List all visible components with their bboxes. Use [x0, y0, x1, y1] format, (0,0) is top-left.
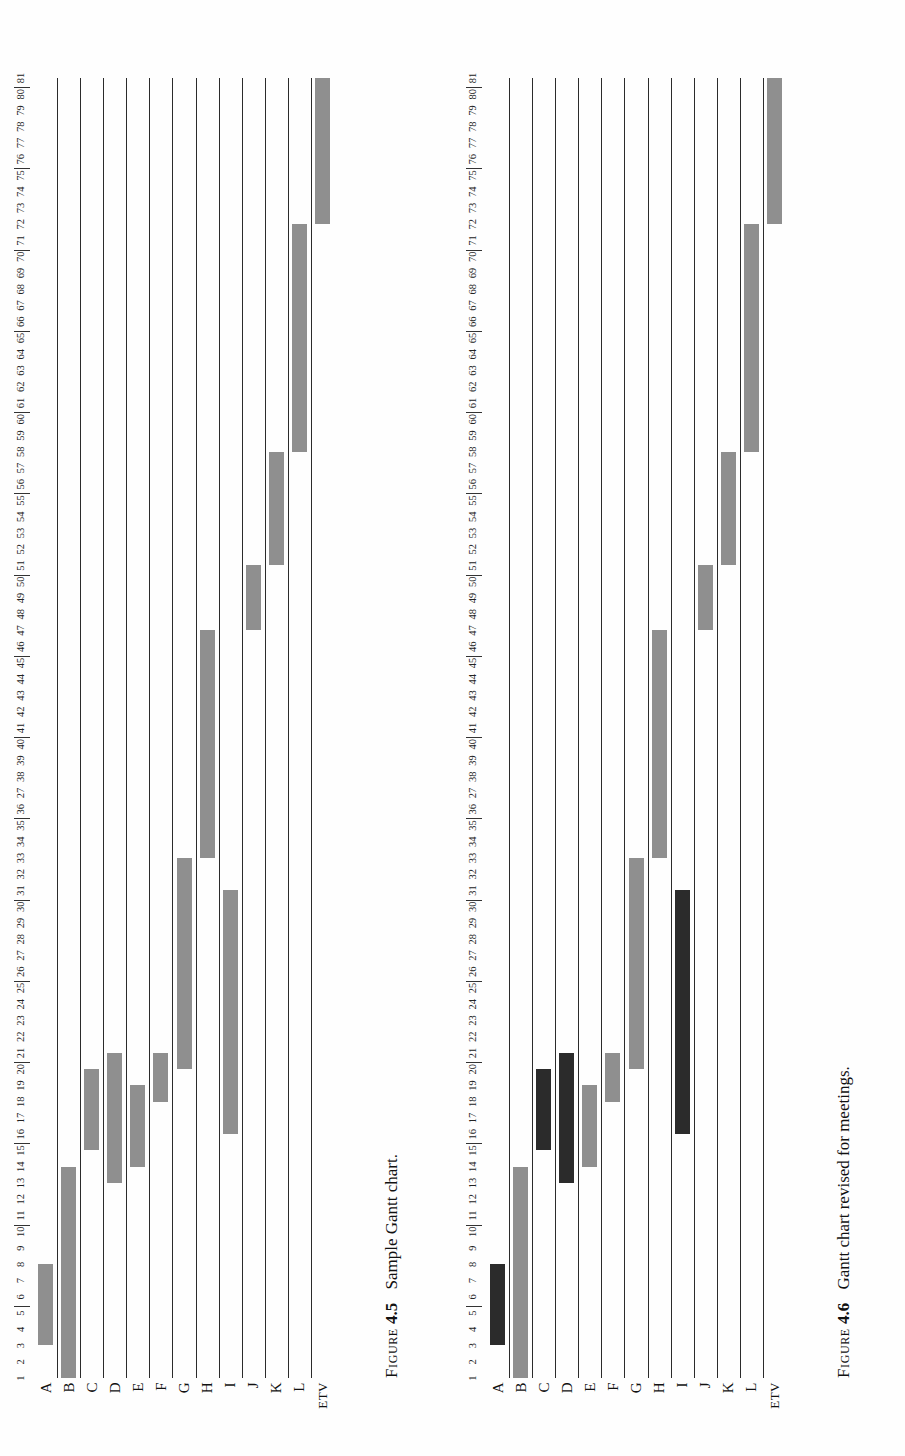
axis-tick-label: 19	[466, 1080, 480, 1091]
axis-tick-label: 80	[466, 89, 480, 100]
axis-tick-label: 17	[466, 1113, 480, 1124]
row-label-d: D	[108, 1382, 123, 1393]
row-label-b: B	[62, 1382, 77, 1393]
axis-group-separator	[14, 169, 30, 170]
axis-tick-label: 59	[14, 430, 28, 441]
axis-group-separator	[14, 87, 30, 88]
axis-tick-label: 47	[466, 625, 480, 636]
axis-tick-label: 67	[14, 300, 28, 311]
axis-group-separator	[14, 1144, 30, 1145]
axis-tick-label: 58	[466, 447, 480, 458]
axis-tick-label: 72	[14, 219, 28, 230]
axis-tick-label: 20	[466, 1064, 480, 1075]
figure-4-5-rotated-canvas: 1234567891011121314151617181920212223242…	[0, 0, 452, 1456]
axis-tick-label: 10	[466, 1227, 480, 1238]
axis-tick-label: 67	[466, 300, 480, 311]
axis-tick-label: 30	[466, 902, 480, 913]
axis-tick-label: 11	[14, 1210, 28, 1220]
gantt-bar-a	[490, 1264, 505, 1345]
axis-tick-label: 75	[14, 170, 28, 181]
axis-tick-label: 30	[14, 902, 28, 913]
axis-tick-label: 36	[466, 804, 480, 815]
gantt-bar-b	[61, 1167, 76, 1378]
gantt-bar-h	[652, 631, 667, 859]
gridline	[288, 78, 289, 1378]
axis-tick-label: 65	[466, 333, 480, 344]
axis-group-separator	[466, 1306, 482, 1307]
figure-4-5-caption-text: Sample Gantt chart.	[382, 1154, 401, 1290]
axis-tick-label: 46	[14, 642, 28, 653]
gantt-bar-j	[246, 566, 261, 631]
axis-tick-label: 59	[466, 430, 480, 441]
row-label-a: A	[491, 1382, 506, 1393]
axis-tick-label: 36	[14, 804, 28, 815]
axis-tick-label: 40	[466, 739, 480, 750]
axis-tick-label: 46	[466, 642, 480, 653]
axis-tick-label: 45	[466, 658, 480, 669]
axis-tick-label: 9	[466, 1245, 480, 1250]
axis-tick-label: 1	[14, 1375, 28, 1380]
figure-4-6-caption-text: Gantt chart revised for meetings.	[834, 1066, 853, 1289]
axis-tick-label: 57	[14, 463, 28, 474]
axis-tick-label: 23	[14, 1015, 28, 1026]
axis-tick-label: 72	[466, 219, 480, 230]
gridline	[265, 78, 266, 1378]
axis-tick-label: 65	[14, 333, 28, 344]
row-label-k: K	[269, 1382, 284, 1393]
axis-tick-label: 5	[14, 1310, 28, 1315]
axis-tick-label: 44	[14, 674, 28, 685]
scanned-book-page: 1234567891011121314151617181920212223242…	[0, 0, 905, 1456]
figure-4-5-block: 1234567891011121314151617181920212223242…	[0, 0, 452, 1456]
figure-4-6-plot-area	[486, 78, 786, 1378]
gridline	[311, 78, 312, 1378]
axis-group-separator	[14, 1306, 30, 1307]
axis-group-separator	[14, 331, 30, 332]
axis-tick-label: 54	[14, 512, 28, 523]
axis-tick-label: 48	[14, 609, 28, 620]
axis-tick-label: 47	[14, 625, 28, 636]
axis-tick-label: 61	[466, 398, 480, 409]
axis-tick-label: 71	[14, 235, 28, 246]
gridline	[103, 78, 104, 1378]
axis-tick-label: 34	[14, 837, 28, 848]
axis-tick-label: 69	[466, 268, 480, 279]
gridline	[532, 78, 533, 1378]
row-label-c: C	[85, 1382, 100, 1393]
axis-tick-label: 71	[466, 235, 480, 246]
gridline	[219, 78, 220, 1378]
axis-tick-label: 76	[466, 154, 480, 165]
gridline	[509, 78, 510, 1378]
axis-group-separator	[14, 1062, 30, 1063]
axis-tick-label: 26	[14, 967, 28, 978]
axis-tick-label: 44	[466, 674, 480, 685]
axis-tick-label: 3	[466, 1343, 480, 1348]
gridline	[717, 78, 718, 1378]
axis-tick-label: 32	[466, 869, 480, 880]
axis-tick-label: 27	[14, 950, 28, 961]
axis-tick-label: 31	[466, 885, 480, 896]
axis-tick-label: 2	[14, 1359, 28, 1364]
axis-tick-label: 29	[466, 918, 480, 929]
axis-tick-label: 19	[14, 1080, 28, 1091]
axis-tick-label: 33	[14, 853, 28, 864]
row-label-b: B	[514, 1382, 529, 1393]
row-label-f: F	[154, 1382, 169, 1391]
axis-tick-label: 62	[466, 382, 480, 393]
axis-tick-label: 63	[466, 365, 480, 376]
axis-group-separator	[466, 819, 482, 820]
axis-tick-label: 42	[466, 707, 480, 718]
gantt-bar-i	[675, 891, 690, 1135]
gantt-bar-g	[177, 858, 192, 1069]
figure-4-5-caption-label: Figure	[382, 1328, 401, 1378]
row-label-e: E	[131, 1382, 146, 1392]
axis-tick-label: 52	[14, 544, 28, 555]
axis-tick-label: 38	[14, 772, 28, 783]
axis-tick-label: 70	[14, 252, 28, 263]
axis-tick-label: 56	[466, 479, 480, 490]
axis-tick-label: 64	[466, 349, 480, 360]
axis-tick-label: 55	[466, 495, 480, 506]
row-label-i: I	[675, 1382, 690, 1388]
axis-group-separator	[14, 981, 30, 982]
axis-group-separator	[14, 737, 30, 738]
axis-tick-label: 56	[14, 479, 28, 490]
